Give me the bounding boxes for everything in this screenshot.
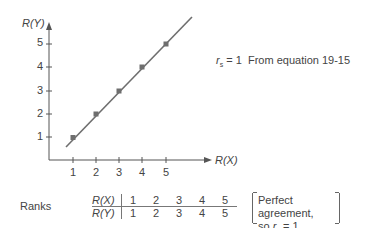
conclusion-bracket: Perfect agreement, so rs = 1	[252, 193, 340, 223]
y-tick-5: 5	[37, 36, 43, 48]
x-tick-4: 4	[139, 166, 145, 178]
x-tick-5: 5	[163, 166, 169, 178]
x-tick-2: 2	[93, 166, 99, 178]
ranks-table: R(X) 1 2 3 4 5 R(Y) 1 2 3 4 5	[92, 194, 237, 219]
y-axis-arrow-icon	[46, 22, 52, 30]
x-axis-label: R(X)	[215, 154, 238, 166]
x-tick-1: 1	[70, 166, 76, 178]
equation-note: From equation 19-15	[248, 54, 350, 66]
x-tick-3: 3	[116, 166, 122, 178]
y-tick-4: 4	[37, 60, 43, 72]
y-tick-1: 1	[37, 130, 43, 142]
ranks-row-y: R(Y) 1 2 3 4 5	[92, 207, 237, 220]
ranks-label: Ranks	[20, 200, 51, 212]
x-axis-arrow-icon	[204, 157, 212, 163]
y-tick-3: 3	[37, 84, 43, 96]
rs-annotation: rs = 1 From equation 19-15	[216, 54, 350, 68]
ranks-row-x: R(X) 1 2 3 4 5	[92, 194, 237, 207]
fit-line	[66, 17, 192, 147]
y-tick-2: 2	[37, 107, 43, 119]
y-axis-label: R(Y)	[22, 17, 45, 29]
conclusion-text: Perfect agreement, so rs = 1	[258, 194, 339, 228]
